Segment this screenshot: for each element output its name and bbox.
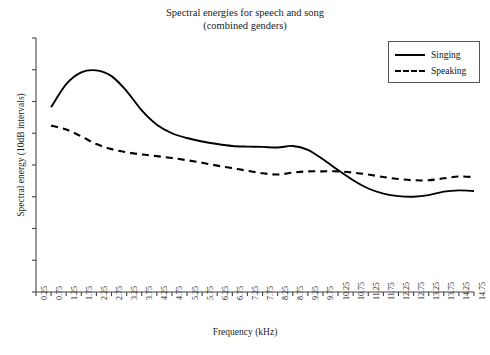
x-tick-label: 12.25	[402, 282, 411, 300]
y-axis-ticks	[32, 38, 36, 292]
y-axis-label: Spectral energy (10dB intervals)	[16, 60, 26, 250]
x-tick-label: 3.25	[130, 286, 139, 300]
data-series-layer	[51, 70, 474, 197]
chart-legend: Singing Speaking	[388, 41, 480, 83]
x-tick-label: 0.75	[55, 286, 64, 300]
x-tick-label: 12.75	[417, 282, 426, 300]
x-tick-label: 10.75	[357, 282, 366, 300]
series-line-singing	[51, 70, 474, 197]
x-tick-label: 11.75	[387, 282, 396, 300]
chart-figure: Spectral energies for speech and song (c…	[0, 0, 490, 355]
x-tick-label: 3.75	[145, 286, 154, 300]
x-tick-label: 0.25	[40, 286, 49, 300]
x-tick-label: 6.25	[221, 286, 230, 300]
x-tick-label: 8.25	[281, 286, 290, 300]
x-tick-label: 1.25	[70, 286, 79, 300]
x-tick-label: 2.25	[100, 286, 109, 300]
x-tick-label: 7.25	[251, 286, 260, 300]
x-tick-label: 7.75	[266, 286, 275, 300]
x-tick-label: 4.75	[175, 286, 184, 300]
x-tick-label: 10.25	[342, 282, 351, 300]
x-tick-label: 1.75	[85, 286, 94, 300]
legend-label-speaking: Speaking	[431, 66, 466, 76]
x-tick-label: 5.25	[191, 286, 200, 300]
x-tick-label: 14.25	[462, 282, 471, 300]
x-tick-label: 4.25	[160, 286, 169, 300]
x-tick-label: 5.75	[206, 286, 215, 300]
x-tick-label: 11.25	[372, 282, 381, 300]
x-axis-label: Frequency (kHz)	[0, 327, 490, 337]
legend-item-speaking: Speaking	[395, 63, 473, 79]
x-tick-label: 9.75	[326, 286, 335, 300]
legend-line-solid-icon	[395, 50, 425, 60]
series-line-speaking	[51, 126, 474, 181]
x-tick-label: 2.75	[115, 286, 124, 300]
x-tick-label: 9.25	[311, 286, 320, 300]
x-tick-label: 14.75	[478, 282, 487, 300]
legend-line-dashed-icon	[395, 66, 425, 76]
x-tick-label: 13.25	[432, 282, 441, 300]
x-tick-label: 8.75	[296, 286, 305, 300]
x-tick-label: 13.75	[447, 282, 456, 300]
legend-label-singing: Singing	[431, 50, 461, 60]
x-tick-label: 6.75	[236, 286, 245, 300]
legend-item-singing: Singing	[395, 47, 473, 63]
